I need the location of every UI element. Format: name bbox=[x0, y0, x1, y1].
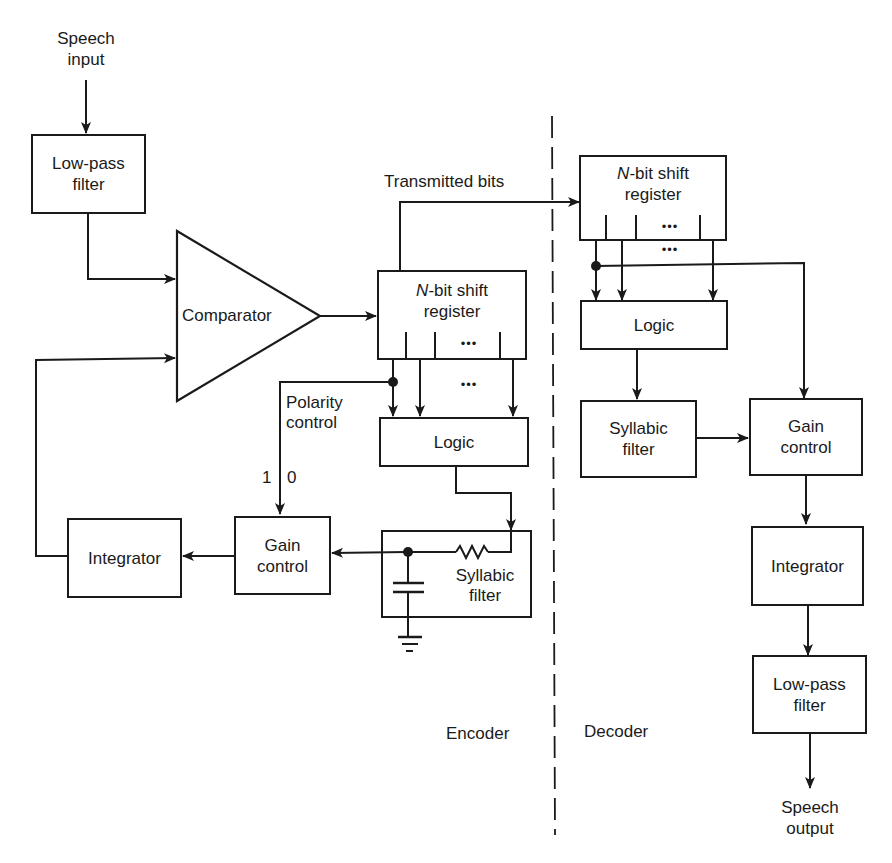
encoder-gain-control-block: Gain control bbox=[234, 516, 331, 595]
polarity-control-label: Polarity control bbox=[286, 393, 343, 433]
encoder-lowpass-filter-block: Low-pass filter bbox=[31, 134, 146, 214]
polarity-zero-label: 0 bbox=[287, 467, 296, 488]
n-italic: N bbox=[617, 164, 629, 183]
decoder-syllabic-filter-block: Syllabic filter bbox=[580, 400, 697, 478]
encoder-logic-block: Logic bbox=[379, 417, 529, 467]
wire-lowpass-comparator bbox=[88, 213, 175, 279]
decoder-sr-ellipsis: ••• bbox=[648, 216, 692, 237]
speech-input-label: Speech input bbox=[44, 28, 128, 70]
junction-dot-encoder-polarity bbox=[388, 377, 398, 387]
decoder-taps-ellipsis: ••• bbox=[648, 239, 692, 260]
polarity-one-label: 1 bbox=[262, 467, 271, 488]
encoder-decoder-divider bbox=[552, 116, 555, 835]
n-italic: N bbox=[416, 281, 428, 300]
decoder-integrator-block: Integrator bbox=[751, 526, 864, 606]
comparator-label: Comparator bbox=[182, 305, 272, 326]
speech-output-label: Speech output bbox=[768, 797, 852, 839]
transmitted-bits-label: Transmitted bits bbox=[384, 171, 504, 192]
encoder-section-label: Encoder bbox=[446, 723, 509, 744]
encoder-sr-ellipsis: ••• bbox=[447, 333, 491, 354]
decoder-gain-control-block: Gain control bbox=[749, 398, 863, 476]
encoder-syllabic-filter-block: Syllabic filter bbox=[381, 530, 532, 618]
decoder-lowpass-filter-block: Low-pass filter bbox=[752, 655, 867, 734]
encoder-integrator-block: Integrator bbox=[67, 518, 182, 598]
wire-logic-syllabic bbox=[456, 466, 511, 530]
decoder-section-label: Decoder bbox=[584, 721, 648, 742]
encoder-taps-ellipsis: ••• bbox=[447, 374, 491, 395]
decoder-logic-block: Logic bbox=[580, 300, 728, 350]
junction-dot-decoder-polarity bbox=[591, 261, 601, 271]
